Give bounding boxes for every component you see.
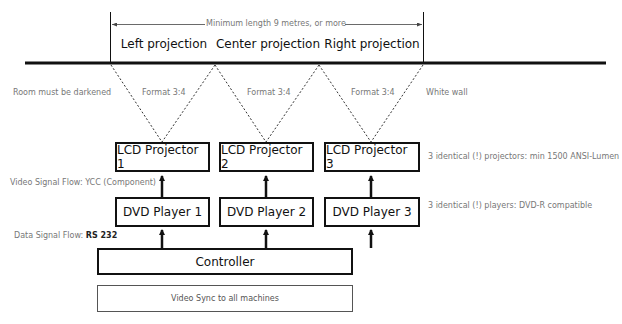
player-note: 3 identical (!) players: DVD-R compatibl… (428, 201, 592, 210)
projector-note: 3 identical (!) projectors: min 1500 ANS… (428, 152, 619, 161)
lcd-projector-2: LCD Projector 2 (219, 142, 314, 172)
format-label-2: Format 3:4 (247, 88, 291, 97)
video-sync-label: Video Sync to all machines (171, 294, 279, 303)
dvd-player-2: DVD Player 2 (219, 197, 314, 227)
center-projection-label: Center projection (214, 37, 322, 51)
video-signal-arrows (162, 176, 371, 197)
data-signal-label: Data Signal Flow: RS 232 (14, 231, 117, 240)
lcd-projector-1-label: LCD Projector 1 (117, 143, 208, 171)
dvd-player-2-label: DVD Player 2 (227, 205, 306, 219)
data-signal-protocol: RS 232 (86, 231, 117, 240)
lcd-projector-2-label: LCD Projector 2 (221, 143, 312, 171)
video-sync-box: Video Sync to all machines (97, 285, 353, 312)
format-label-3: Format 3:4 (351, 88, 395, 97)
lcd-projector-3-label: LCD Projector 3 (326, 143, 418, 171)
dvd-player-1-label: DVD Player 1 (123, 205, 202, 219)
video-signal-label: Video Signal Flow: YCC (Component) (10, 178, 156, 187)
format-label-1: Format 3:4 (142, 88, 186, 97)
data-signal-prefix: Data Signal Flow: (14, 231, 86, 240)
dvd-player-1: DVD Player 1 (115, 197, 210, 227)
lcd-projector-3: LCD Projector 3 (324, 142, 420, 172)
controller-label: Controller (195, 255, 254, 269)
white-wall-note: White wall (426, 88, 468, 97)
controller-box: Controller (97, 248, 353, 275)
projection-beams (111, 65, 423, 142)
room-darkened-note: Room must be darkened (13, 88, 111, 97)
right-projection-label: Right projection (320, 37, 424, 51)
min-length-label: Minimum length 9 metres, or more (206, 19, 344, 28)
data-signal-arrows (162, 230, 371, 248)
lcd-projector-1: LCD Projector 1 (115, 142, 210, 172)
dvd-player-3: DVD Player 3 (324, 197, 420, 227)
dvd-player-3-label: DVD Player 3 (332, 205, 411, 219)
left-projection-label: Left projection (112, 37, 216, 51)
